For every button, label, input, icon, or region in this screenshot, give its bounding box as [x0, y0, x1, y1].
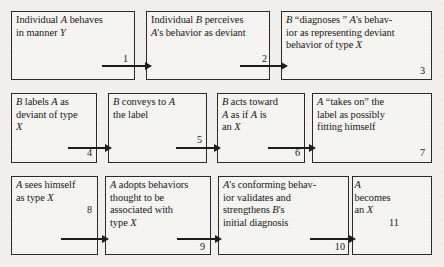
flow-box-5-text: B conveys to Athe label	[113, 96, 204, 121]
flow-arrow-1-to-2	[102, 62, 152, 70]
flow-box-11[interactable]: Abecomesan X 11	[352, 176, 432, 255]
flow-box-7-text: A “takes on” thelabel as possiblyfitting…	[317, 96, 429, 134]
flow-box-7-number: 7	[420, 147, 425, 160]
flow-box-2-text: Individual B perceivesA's behavior as de…	[151, 14, 267, 39]
arrow-head	[214, 144, 221, 152]
flow-box-1-text: Individual A behavesin manner Y	[16, 14, 132, 39]
arrow-head	[102, 235, 109, 243]
arrow-head	[145, 62, 152, 70]
flow-box-10-text: A's conforming behav-ior validates andst…	[223, 179, 346, 229]
flow-box-6[interactable]: B acts towardA as if A isan X 6	[217, 93, 305, 163]
flow-arrow-2-to-3	[240, 62, 288, 70]
flow-box-9-text: A adopts behaviorsthought to beassociate…	[110, 179, 208, 229]
flow-box-3[interactable]: B “diagnoses ” A's behav-ior as represen…	[281, 11, 432, 80]
flow-arrow-6-to-7	[268, 144, 316, 152]
flow-box-4-text: B labels A asdeviant of typeX	[16, 96, 94, 134]
arrow-shaft	[310, 238, 350, 239]
flow-box-4[interactable]: B labels A asdeviant of typeX 4	[11, 93, 97, 163]
flow-arrow-9-to-10	[177, 235, 222, 243]
flow-box-6-text: B acts towardA as if A isan X	[222, 96, 302, 134]
arrow-head	[309, 144, 316, 152]
flow-box-8-number: 8	[87, 204, 92, 217]
arrow-head	[349, 235, 356, 243]
arrow-shaft	[240, 65, 282, 66]
flow-arrow-4-to-5	[68, 144, 112, 152]
flow-box-10[interactable]: A's conforming behav-ior validates andst…	[218, 176, 349, 255]
arrow-head	[215, 235, 222, 243]
flow-arrow-8-to-9	[61, 235, 109, 243]
arrow-shaft	[102, 65, 146, 66]
flow-box-11-number: 11	[389, 217, 399, 230]
arrow-shaft	[176, 147, 215, 148]
arrow-head	[281, 62, 288, 70]
arrow-shaft	[61, 238, 103, 239]
flow-box-11-text: Abecomesan X	[355, 179, 430, 217]
arrow-head	[105, 144, 112, 152]
flow-arrow-5-to-6	[176, 144, 221, 152]
flow-box-8-text: A sees himselfas type X	[16, 179, 95, 204]
flow-box-8[interactable]: A sees himselfas type X 8	[11, 176, 98, 255]
flow-box-5[interactable]: B conveys to Athe label 5	[108, 93, 207, 163]
flow-box-3-text: B “diagnoses ” A's behav-ior as represen…	[286, 14, 429, 52]
flow-box-3-number: 3	[420, 65, 425, 78]
flow-box-7[interactable]: A “takes on” thelabel as possiblyfitting…	[312, 93, 432, 163]
arrow-shaft	[68, 147, 106, 148]
flow-arrow-10-to-11	[310, 235, 356, 243]
flow-box-9[interactable]: A adopts behaviorsthought to beassociate…	[105, 176, 211, 255]
arrow-shaft	[268, 147, 310, 148]
arrow-shaft	[177, 238, 216, 239]
flowchart-diagram: Individual A behavesin manner Y 1 Indivi…	[0, 0, 444, 267]
